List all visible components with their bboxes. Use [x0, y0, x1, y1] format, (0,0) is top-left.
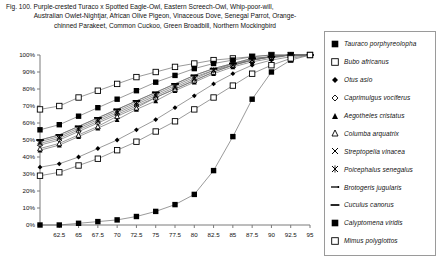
open-triangle-glyph [332, 130, 338, 136]
legend-item[interactable]: Calyptomena viridis [329, 214, 433, 232]
legend-item-label: Mimus polyglottos [344, 237, 398, 244]
x-tick-label: 77.5 [169, 231, 182, 238]
data-point-open-triangle [57, 141, 62, 146]
y-tick-label: 10% [23, 204, 36, 211]
x-tick-label: 87.5 [246, 231, 259, 238]
y-tick-label: 80% [23, 85, 36, 92]
y-tick-label: 30% [23, 170, 36, 177]
data-point-open-square [37, 107, 42, 112]
filled-triangle-glyph [332, 113, 338, 119]
data-point-filled-square [249, 54, 254, 59]
caption-line-3: chinned Parakeet, Common Cuckoo, Green B… [4, 21, 326, 30]
legend-item[interactable]: Brotogeris jugularis [329, 178, 433, 196]
chart-series-group [36, 52, 314, 228]
data-point-filled-square [172, 73, 177, 78]
filled-diamond-icon [329, 74, 341, 86]
star-cross-icon [329, 163, 341, 175]
data-point-open-square [134, 74, 139, 79]
data-point-filled-diamond [173, 105, 178, 110]
data-point-filled-diamond [134, 127, 139, 132]
data-point-filled-diamond [57, 161, 62, 166]
data-point-filled-square [37, 222, 42, 227]
y-tick-label: 90% [23, 68, 36, 75]
y-tick-label: 40% [23, 153, 36, 160]
dash-dot-icon [329, 181, 341, 193]
open-triangle-icon [329, 127, 341, 139]
x-tick-label: 70 [114, 231, 121, 238]
y-tick-label: 100% [19, 51, 35, 58]
data-point-filled-square [95, 105, 100, 110]
y-tick-label: 20% [23, 187, 36, 194]
open-diamond-icon [329, 92, 341, 104]
legend-item-label: Caprimulgus vociferus [344, 94, 410, 101]
data-point-filled-square [114, 217, 119, 222]
data-point-filled-square [134, 214, 139, 219]
data-point-open-square [114, 81, 119, 86]
chart-legend: Tauraco porphyreolophaBubo africanusOtus… [324, 31, 436, 256]
data-point-filled-diamond [95, 146, 100, 151]
data-point-open-square [249, 71, 254, 76]
legend-item-label: Otus asio [344, 76, 372, 83]
data-point-filled-diamond [115, 138, 120, 143]
legend-item[interactable]: Bubo africanus [329, 53, 433, 71]
data-point-filled-diamond [38, 165, 43, 170]
data-point-filled-square [57, 122, 62, 127]
x-tick-label: 67.5 [92, 231, 105, 238]
data-point-filled-square [230, 134, 235, 139]
data-point-open-square [230, 83, 235, 88]
data-point-filled-square [172, 202, 177, 207]
filled-triangle-icon [329, 110, 341, 122]
data-point-open-square [76, 163, 81, 168]
data-point-open-triangle [76, 133, 81, 138]
chart-plot-area: 0%10%20%30%40%50%60%70%80%90%100%62.5656… [0, 44, 322, 262]
figure-caption: Fig. 100. Purple-crested Turaco x Spotte… [4, 2, 326, 30]
open-square-icon [329, 235, 341, 247]
filled-square-icon [329, 217, 341, 229]
y-tick-label: 60% [23, 119, 36, 126]
legend-item[interactable]: Otus asio [329, 71, 433, 89]
caption-line-2: Australian Owlet-Nightjar, African Olive… [4, 11, 326, 20]
data-point-filled-square [76, 114, 81, 119]
data-point-open-square [172, 64, 177, 69]
data-point-open-square [192, 61, 197, 66]
data-point-filled-square [211, 61, 216, 66]
data-point-filled-diamond [76, 155, 81, 160]
y-tick-label: 0% [26, 221, 35, 228]
y-tick-label: 50% [23, 136, 36, 143]
legend-item[interactable]: Cuculus canorus [329, 196, 433, 214]
open-square-glyph [332, 59, 339, 66]
data-point-open-square [172, 119, 177, 124]
x-tick-label: 65 [75, 231, 82, 238]
data-point-open-square [95, 88, 100, 93]
filled-square-icon [329, 38, 341, 50]
data-point-filled-square [211, 168, 216, 173]
data-point-filled-square [37, 127, 42, 132]
legend-item[interactable]: Streptopelia vinacea [329, 142, 433, 160]
open-square-icon [329, 56, 341, 68]
legend-item[interactable]: Caprimulgus vociferus [329, 89, 433, 107]
data-point-filled-diamond [230, 71, 235, 76]
data-point-open-triangle [95, 124, 100, 129]
data-point-open-square [307, 52, 312, 57]
data-point-filled-square [230, 57, 235, 62]
data-point-filled-square [269, 52, 274, 57]
legend-item[interactable]: Poicephalus senegalus [329, 160, 433, 178]
chart-axes: 0%10%20%30%40%50%60%70%80%90%100%62.5656… [19, 51, 314, 237]
legend-item[interactable]: Aegotheles cristatus [329, 107, 433, 125]
data-point-filled-diamond [211, 82, 216, 87]
filled-square-glyph [332, 41, 339, 48]
legend-item[interactable]: Mimus polyglottos [329, 232, 433, 250]
legend-item[interactable]: Columba arquatrix [329, 124, 433, 142]
legend-item-label: Tauraco porphyreolopha [344, 40, 416, 47]
x-tick-label: 92.5 [285, 231, 298, 238]
data-point-filled-square [269, 69, 274, 74]
dash-icon [329, 199, 341, 211]
data-point-filled-square [114, 97, 119, 102]
data-point-open-square [192, 107, 197, 112]
x-cross-icon [329, 145, 341, 157]
data-point-open-square [37, 173, 42, 178]
legend-item[interactable]: Tauraco porphyreolopha [329, 35, 433, 53]
data-point-open-square [269, 63, 274, 68]
x-tick-label: 85 [229, 231, 236, 238]
x-tick-label: 82.5 [208, 231, 221, 238]
